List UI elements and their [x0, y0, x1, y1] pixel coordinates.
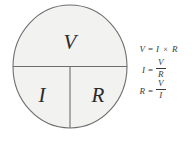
formula-resistance-fraction: V I — [156, 79, 166, 100]
formula-voltage-rhs: I × R — [156, 44, 178, 54]
formula-resistance-equals: = — [145, 86, 156, 96]
formula-voltage-factor-a: I — [156, 44, 159, 54]
formula-current-equals: = — [145, 65, 156, 75]
formula-current: I = V R — [136, 59, 196, 80]
ohms-law-circle: V I R — [12, 4, 128, 129]
circle-segment-label-voltage: V — [12, 32, 128, 53]
formula-voltage-lhs: V — [136, 44, 145, 54]
formula-voltage: V = I × R — [136, 38, 196, 59]
formula-resistance-numerator: V — [156, 79, 166, 89]
formula-voltage-equals: = — [145, 44, 156, 54]
formula-resistance-denominator: I — [157, 90, 164, 100]
multiply-icon: × — [161, 45, 170, 54]
formula-current-fraction: V R — [156, 58, 166, 79]
formula-list: V = I × R I = V R R = V I — [136, 38, 196, 101]
formula-resistance-lhs: R — [136, 86, 145, 96]
formula-current-lhs: I — [136, 65, 145, 75]
circle-graphic — [12, 4, 128, 129]
formula-voltage-factor-b: R — [172, 44, 178, 54]
circle-segment-label-resistance: R — [70, 85, 126, 106]
ohms-law-diagram-page: V I R V = I × R I = V R R — [0, 0, 196, 141]
formula-current-numerator: V — [156, 58, 166, 68]
circle-segment-label-current: I — [14, 85, 70, 106]
formula-resistance: R = V I — [136, 80, 196, 101]
